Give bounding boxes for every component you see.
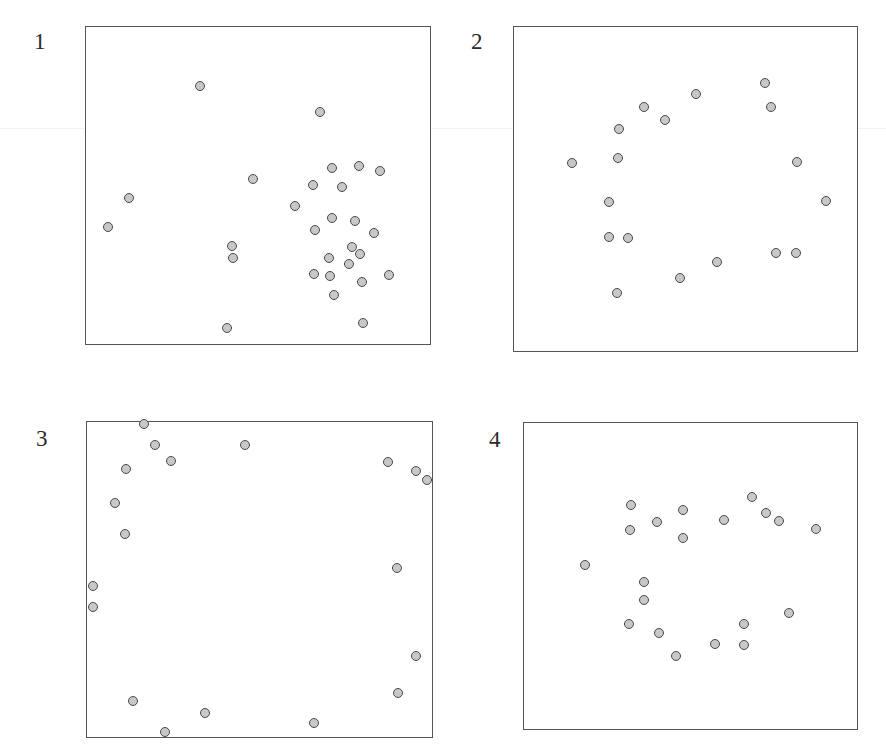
data-point xyxy=(678,505,688,515)
data-point xyxy=(160,727,170,737)
data-point xyxy=(228,253,238,263)
data-point xyxy=(290,201,300,211)
panel-label-4: 4 xyxy=(489,428,501,451)
data-point xyxy=(128,696,138,706)
data-point xyxy=(774,516,784,526)
data-point xyxy=(88,602,98,612)
data-point xyxy=(227,241,237,251)
data-point xyxy=(310,225,320,235)
data-point xyxy=(324,253,334,263)
data-point xyxy=(121,464,131,474)
data-point xyxy=(358,318,368,328)
data-point xyxy=(613,153,623,163)
data-point xyxy=(792,157,802,167)
data-point xyxy=(604,197,614,207)
data-point xyxy=(771,248,781,258)
data-point xyxy=(675,273,685,283)
data-point xyxy=(308,180,318,190)
data-point xyxy=(612,288,622,298)
data-point xyxy=(678,533,688,543)
data-point xyxy=(739,640,749,650)
data-point xyxy=(354,161,364,171)
data-point xyxy=(139,419,149,429)
data-point xyxy=(691,89,701,99)
data-point xyxy=(710,639,720,649)
data-point xyxy=(652,517,662,527)
data-point xyxy=(671,651,681,661)
data-point xyxy=(375,166,385,176)
data-point xyxy=(344,259,354,269)
panel-3-plot-area xyxy=(86,421,433,738)
data-point xyxy=(411,651,421,661)
data-point xyxy=(811,524,821,534)
panel-2 xyxy=(513,26,858,352)
data-point xyxy=(315,107,325,117)
panel-2-plot-area xyxy=(513,26,858,352)
data-point xyxy=(150,440,160,450)
data-point xyxy=(309,269,319,279)
data-point xyxy=(383,457,393,467)
panel-3 xyxy=(86,421,433,738)
data-point xyxy=(393,688,403,698)
data-point xyxy=(120,529,130,539)
data-point xyxy=(103,222,113,232)
data-point xyxy=(124,193,134,203)
data-point xyxy=(357,277,367,287)
panel-1 xyxy=(85,26,431,345)
data-point xyxy=(791,248,801,258)
data-point xyxy=(614,124,624,134)
data-point xyxy=(422,475,432,485)
data-point xyxy=(329,290,339,300)
data-point xyxy=(337,182,347,192)
data-point xyxy=(821,196,831,206)
data-point xyxy=(712,257,722,267)
data-point xyxy=(411,466,421,476)
data-point xyxy=(625,525,635,535)
data-point xyxy=(327,163,337,173)
data-point xyxy=(626,500,636,510)
data-point xyxy=(784,608,794,618)
data-point xyxy=(384,270,394,280)
data-point xyxy=(327,213,337,223)
data-point xyxy=(309,718,319,728)
data-point xyxy=(623,233,633,243)
data-point xyxy=(325,271,335,281)
data-point xyxy=(739,619,749,629)
data-point xyxy=(639,102,649,112)
panel-1-plot-area xyxy=(85,26,431,345)
data-point xyxy=(604,232,614,242)
scatter-plot-figure: 1234 xyxy=(0,0,886,754)
data-point xyxy=(110,498,120,508)
panel-label-3: 3 xyxy=(36,427,48,450)
data-point xyxy=(200,708,210,718)
data-point xyxy=(747,492,757,502)
data-point xyxy=(355,249,365,259)
data-point xyxy=(248,174,258,184)
data-point xyxy=(654,628,664,638)
data-point xyxy=(166,456,176,466)
data-point xyxy=(719,515,729,525)
data-point xyxy=(195,81,205,91)
data-point xyxy=(580,560,590,570)
data-point xyxy=(222,323,232,333)
panel-4-plot-area xyxy=(523,422,858,730)
data-point xyxy=(240,440,250,450)
panel-4 xyxy=(523,422,858,730)
data-point xyxy=(639,595,649,605)
panel-label-2: 2 xyxy=(471,30,483,53)
panel-label-1: 1 xyxy=(34,30,46,53)
data-point xyxy=(567,158,577,168)
data-point xyxy=(350,216,360,226)
data-point xyxy=(766,102,776,112)
data-point xyxy=(761,508,771,518)
data-point xyxy=(369,228,379,238)
data-point xyxy=(624,619,634,629)
data-point xyxy=(660,115,670,125)
data-point xyxy=(392,563,402,573)
data-point xyxy=(760,78,770,88)
data-point xyxy=(88,581,98,591)
data-point xyxy=(639,577,649,587)
